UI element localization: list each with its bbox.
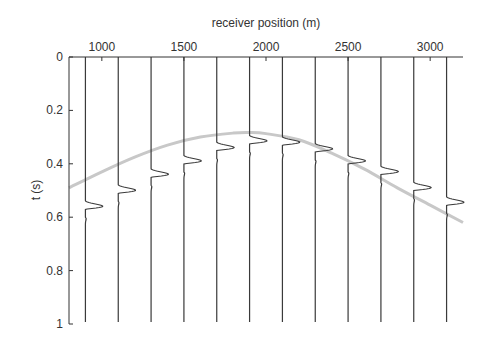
- seismic-trace: [381, 57, 398, 322]
- axes: 1000150020002500300000.20.40.60.81: [46, 40, 463, 331]
- traveltime-curve: [69, 132, 463, 222]
- seismic-trace: [447, 57, 464, 322]
- traveltime-curve-line: [69, 132, 463, 222]
- x-tick-label: 1000: [88, 40, 115, 54]
- seismic-trace: [217, 57, 234, 322]
- y-tick-label: 1: [56, 317, 63, 331]
- seismic-trace: [282, 57, 299, 322]
- seismic-trace: [184, 57, 201, 322]
- x-tick-label: 2500: [335, 40, 362, 54]
- seismic-trace: [118, 57, 135, 322]
- x-axis-title: receiver position (m): [212, 16, 321, 30]
- x-tick-label: 2000: [253, 40, 280, 54]
- y-tick-label: 0.4: [46, 157, 63, 171]
- y-tick-label: 0.2: [46, 103, 63, 117]
- seismic-chart: 1000150020002500300000.20.40.60.81 recei…: [0, 0, 488, 341]
- seismic-trace: [85, 57, 102, 322]
- seismic-trace: [414, 57, 431, 322]
- seismic-trace: [250, 57, 267, 322]
- seismic-trace: [348, 57, 365, 322]
- seismic-trace: [315, 57, 332, 322]
- y-tick-label: 0: [56, 50, 63, 64]
- x-tick-label: 3000: [417, 40, 444, 54]
- seismic-trace: [151, 57, 168, 322]
- y-axis-title: t (s): [29, 180, 43, 201]
- y-tick-label: 0.8: [46, 264, 63, 278]
- seismic-traces: [85, 57, 463, 322]
- x-tick-label: 1500: [171, 40, 198, 54]
- y-tick-label: 0.6: [46, 210, 63, 224]
